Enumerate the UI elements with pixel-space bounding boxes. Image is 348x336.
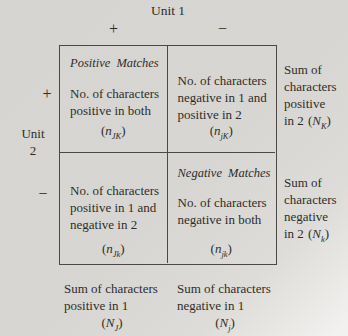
text-line: positive in 2	[178, 106, 274, 123]
text-line: characters	[284, 78, 348, 95]
unit1-axis-title: Unit 1	[59, 3, 277, 19]
row-sum-positive-label: Sum of characters positive in 2(NK)	[284, 61, 348, 129]
column-negative-sign: −	[168, 20, 277, 38]
formula-sub: jK	[220, 131, 228, 141]
text-line: Sum of	[284, 61, 348, 78]
paren-close: )	[118, 315, 122, 330]
text-line: negative	[284, 208, 348, 225]
text-line: Sum of characters	[177, 280, 281, 297]
formula-n-Jk: (nJk)	[60, 241, 167, 257]
text-line: negative in both	[178, 211, 274, 228]
formula-n-jk: (njk)	[168, 241, 276, 257]
column-sum-negative-label: Sum of characters negative in 1 (Nj)	[177, 280, 281, 331]
negative-matches-description: No. of characters negative in both	[178, 194, 274, 228]
text-line: No. of characters	[70, 85, 165, 102]
formula-var: N	[312, 113, 321, 128]
paren-close: )	[231, 315, 235, 330]
formula-sub: JK	[112, 131, 121, 141]
negative-matches-heading: Negative Matches	[178, 166, 274, 181]
formula-N-K: in 2(NK)	[284, 112, 348, 129]
text-line: Sum of characters	[64, 280, 168, 297]
column-positive-sign: +	[59, 20, 168, 38]
text-line: No. of characters	[70, 182, 165, 199]
row-negative-sign: −	[36, 185, 50, 203]
neg1-pos2-description: No. of characters negative in 1 and posi…	[178, 72, 274, 123]
unit2-axis-title: Unit 2	[15, 125, 51, 159]
cell-positive1-negative2: No. of characters positive in 1 and nega…	[60, 153, 168, 264]
formula-var: N	[219, 315, 228, 330]
formula-prefix: in 2	[284, 113, 304, 128]
text-line: negative in 1	[177, 297, 281, 314]
text-line: Sum of	[284, 174, 348, 191]
text-line: No. of characters	[178, 72, 274, 89]
figure-contingency-table: Unit 1 + − + Unit 2 − Positive Matches N…	[0, 0, 348, 336]
paren-close: )	[325, 226, 329, 241]
paren-close: )	[228, 241, 232, 256]
formula-prefix: in 2	[284, 226, 304, 241]
cell-negative1-positive2: No. of characters negative in 1 and posi…	[168, 46, 276, 153]
formula-var: N	[312, 226, 321, 241]
contingency-table: Positive Matches No. of characters posit…	[59, 45, 277, 265]
positive-matches-heading: Positive Matches	[70, 56, 165, 71]
pos1-neg2-description: No. of characters positive in 1 and nega…	[70, 182, 165, 233]
text-line: positive in 1 and	[70, 199, 165, 216]
paren-close: )	[229, 123, 233, 138]
text-line: positive	[284, 95, 348, 112]
unit2-axis-title-line1: Unit	[15, 125, 51, 142]
text-line: negative in 2	[70, 216, 165, 233]
text-line: characters	[284, 191, 348, 208]
text-line: No. of characters	[178, 194, 274, 211]
formula-N-J: (NJ)	[64, 314, 160, 331]
cell-negative-matches: Negative Matches No. of characters negat…	[168, 153, 276, 264]
cell-positive-matches: Positive Matches No. of characters posit…	[60, 46, 168, 153]
unit2-axis-title-line2: 2	[15, 142, 51, 159]
paren-close: )	[120, 241, 124, 256]
paren-close: )	[121, 123, 125, 138]
formula-n-jK: (njK)	[168, 123, 276, 139]
column-sum-positive-label: Sum of characters positive in 1 (NJ)	[64, 280, 168, 331]
text-line: negative in 1 and	[178, 89, 274, 106]
formula-N-j: (Nj)	[177, 314, 273, 331]
paren-close: )	[327, 113, 331, 128]
formula-n-JK: (nJK)	[60, 123, 167, 139]
row-sum-negative-label: Sum of characters negative in 2(Nk)	[284, 174, 348, 242]
text-line: positive in both	[70, 102, 165, 119]
formula-N-k: in 2(Nk)	[284, 225, 348, 242]
positive-matches-description: No. of characters positive in both	[70, 85, 165, 119]
text-line: positive in 1	[64, 297, 168, 314]
row-positive-sign: +	[40, 85, 54, 103]
